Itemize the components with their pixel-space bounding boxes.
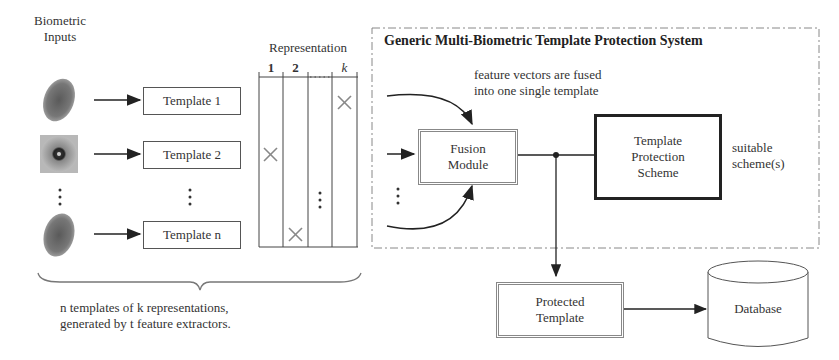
suitable-schemes-note: suitable scheme(s)	[732, 140, 785, 172]
brace	[38, 273, 361, 290]
protected-line2: Template	[536, 310, 584, 325]
system-title: Generic Multi-Biometric Template Protect…	[384, 33, 814, 49]
template-n-label: Template n	[163, 227, 221, 243]
template-2-box: Template 2	[143, 141, 241, 169]
inputs-heading: Biometric Inputs	[20, 13, 100, 45]
suitable-line2: scheme(s)	[732, 156, 785, 172]
suitable-line1: suitable	[732, 140, 785, 156]
protected-template-label: Protected Template	[535, 294, 584, 326]
rep-col-2: 2	[283, 60, 308, 76]
template-2-label: Template 2	[163, 147, 221, 163]
inputs-heading-line2: Inputs	[20, 29, 100, 45]
iris-icon	[40, 135, 78, 173]
template-n-box: Template n	[143, 221, 241, 249]
template-1-label: Template 1	[163, 93, 221, 109]
tps-line2: Protection	[631, 149, 684, 164]
ellipsis-icon	[59, 189, 192, 206]
fusion-note: feature vectors are fused into one singl…	[474, 67, 601, 99]
tps-line1: Template	[634, 133, 682, 148]
protected-template-box: Protected Template	[496, 282, 624, 338]
tps-line3: Scheme	[637, 165, 678, 180]
fingerprint-icon	[39, 210, 79, 260]
fusion-note-line2: into one single template	[474, 83, 601, 99]
database-label: Database	[708, 301, 808, 317]
fingerprint-icon	[37, 74, 80, 126]
inputs-heading-line1: Biometric	[20, 13, 100, 29]
protected-line1: Protected	[535, 294, 584, 309]
brace-caption: n templates of k representations, genera…	[60, 300, 340, 332]
fusion-note-line1: feature vectors are fused	[474, 67, 601, 83]
template-1-box: Template 1	[143, 87, 241, 115]
fusion-module-box: Fusion Module	[418, 129, 518, 185]
template-protection-scheme-box: Template Protection Scheme	[594, 114, 722, 200]
rep-col-k: k	[332, 60, 357, 76]
rep-col-1: 1	[259, 60, 283, 76]
brace-caption-line1: n templates of k representations,	[60, 300, 340, 316]
representation-heading: Representation	[252, 40, 364, 56]
tps-label: Template Protection Scheme	[631, 133, 684, 181]
fusion-module-line2: Module	[448, 157, 488, 172]
fusion-module-line1: Fusion	[450, 141, 485, 156]
representation-table	[259, 72, 358, 247]
fusion-module-label: Fusion Module	[448, 141, 488, 173]
brace-caption-line2: generated by t feature extractors.	[60, 316, 340, 332]
